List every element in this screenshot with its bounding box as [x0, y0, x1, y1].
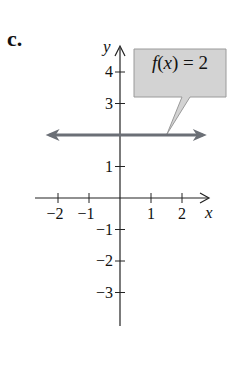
y-tick-label: 1 — [105, 158, 113, 175]
y-tick-label: 4 — [105, 63, 113, 80]
x-axis-label: x — [204, 203, 213, 222]
variable-x: x — [164, 52, 172, 73]
x-tick-label: −1 — [77, 205, 94, 222]
x-tick-labels: −2−112 — [46, 205, 186, 222]
function-line — [46, 129, 207, 141]
function-label: f(x) = 2 — [134, 52, 226, 74]
y-tick-label: −1 — [96, 221, 113, 238]
y-tick-label: 3 — [105, 95, 113, 112]
x-tick-label: 1 — [147, 205, 155, 222]
y-tick-label: −2 — [96, 252, 113, 269]
y-tick-labels: 431−1−2−3 — [96, 63, 113, 301]
x-tick-label: 2 — [178, 205, 186, 222]
equals-value: ) = 2 — [172, 52, 208, 73]
y-tick-label: −3 — [96, 284, 113, 301]
y-axis-label: y — [101, 37, 111, 56]
x-tick-label: −2 — [46, 205, 63, 222]
